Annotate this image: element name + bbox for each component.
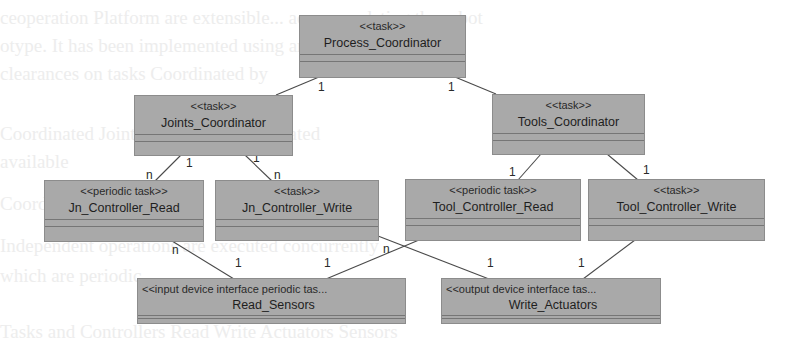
operations-compartment bbox=[45, 226, 203, 241]
stereotype-label: <<task>> bbox=[300, 19, 465, 33]
multiplicity-label: 1 bbox=[643, 164, 650, 176]
multiplicity-label: 1 bbox=[448, 81, 455, 93]
multiplicity-label: n bbox=[383, 243, 390, 255]
multiplicity-label: 1 bbox=[578, 257, 585, 269]
link-toolread-readsensors[interactable] bbox=[326, 240, 419, 279]
class-joints-coordinator[interactable]: <<task>> Joints_Coordinator bbox=[134, 95, 293, 156]
stereotype-label: <<periodic task>> bbox=[406, 183, 580, 197]
link-jnread-readsensors[interactable] bbox=[172, 241, 234, 279]
attributes-compartment bbox=[406, 218, 580, 225]
attributes-compartment bbox=[589, 218, 764, 225]
operations-compartment bbox=[406, 225, 580, 240]
link-process-joints[interactable] bbox=[276, 77, 319, 95]
class-write-actuators[interactable]: <<output device interface tas... Write_A… bbox=[441, 278, 661, 324]
class-name: Read_Sensors bbox=[142, 298, 405, 312]
class-tool-controller-write[interactable]: <<task>> Tool_Controller_Write bbox=[588, 179, 765, 241]
class-header: <<task>> Jn_Controller_Write bbox=[216, 181, 378, 215]
link-toolwrite-writeactuators[interactable] bbox=[583, 240, 635, 279]
operations-compartment bbox=[216, 226, 378, 240]
link-jnwrite-writeactuators[interactable] bbox=[378, 236, 489, 279]
class-name: Tool_Controller_Read bbox=[406, 200, 580, 214]
attributes-compartment bbox=[300, 54, 465, 61]
class-header: <<output device interface tas... Write_A… bbox=[442, 279, 660, 312]
operations-compartment bbox=[589, 225, 764, 240]
multiplicity-label: 1 bbox=[324, 257, 331, 269]
class-name: Tools_Coordinator bbox=[493, 115, 644, 129]
operations-compartment bbox=[442, 318, 660, 323]
link-tools-toolwrite[interactable] bbox=[607, 154, 638, 180]
multiplicity-label: n bbox=[172, 244, 179, 256]
multiplicity-label: 1 bbox=[186, 157, 193, 169]
stereotype-label: <<input device interface periodic tas... bbox=[142, 282, 405, 296]
stereotype-label: <<task>> bbox=[135, 99, 292, 113]
class-tools-coordinator[interactable]: <<task>> Tools_Coordinator bbox=[492, 94, 645, 155]
stereotype-label: <<task>> bbox=[589, 183, 764, 197]
class-process-coordinator[interactable]: <<task>> Process_Coordinator bbox=[299, 15, 466, 78]
class-read-sensors[interactable]: <<input device interface periodic tas...… bbox=[137, 278, 406, 324]
multiplicity-label: 1 bbox=[235, 257, 242, 269]
class-name: Write_Actuators bbox=[446, 298, 660, 312]
operations-compartment bbox=[493, 140, 644, 154]
class-jn-controller-write[interactable]: <<task>> Jn_Controller_Write bbox=[215, 180, 379, 241]
multiplicity-label: 1 bbox=[509, 166, 516, 178]
attributes-compartment bbox=[216, 219, 378, 226]
attributes-compartment bbox=[135, 134, 292, 141]
class-header: <<periodic task>> Jn_Controller_Read bbox=[45, 181, 203, 215]
class-name: Jn_Controller_Read bbox=[45, 201, 203, 215]
class-name: Joints_Coordinator bbox=[135, 116, 292, 130]
link-joints-jnread[interactable] bbox=[155, 155, 181, 181]
operations-compartment bbox=[135, 141, 292, 155]
class-header: <<task>> Process_Coordinator bbox=[300, 16, 465, 50]
class-header: <<input device interface periodic tas...… bbox=[138, 279, 405, 312]
attributes-compartment bbox=[45, 219, 203, 226]
multiplicity-label: 1 bbox=[318, 81, 325, 93]
class-header: <<task>> Tools_Coordinator bbox=[493, 95, 644, 129]
stereotype-label: <<output device interface tas... bbox=[446, 282, 660, 296]
class-name: Process_Coordinator bbox=[300, 36, 465, 50]
link-process-tools[interactable] bbox=[455, 77, 496, 94]
class-tool-controller-read[interactable]: <<periodic task>> Tool_Controller_Read bbox=[405, 179, 581, 241]
stereotype-label: <<task>> bbox=[493, 98, 644, 112]
operations-compartment bbox=[300, 61, 465, 77]
stereotype-label: <<task>> bbox=[216, 184, 378, 198]
stereotype-label: <<periodic task>> bbox=[45, 184, 203, 198]
attributes-compartment bbox=[493, 133, 644, 140]
class-jn-controller-read[interactable]: <<periodic task>> Jn_Controller_Read bbox=[44, 180, 204, 242]
class-name: Tool_Controller_Write bbox=[589, 200, 764, 214]
class-header: <<task>> Joints_Coordinator bbox=[135, 96, 292, 130]
link-tools-toolread[interactable] bbox=[518, 154, 541, 180]
class-header: <<task>> Tool_Controller_Write bbox=[589, 180, 764, 214]
operations-compartment bbox=[138, 318, 405, 323]
class-header: <<periodic task>> Tool_Controller_Read bbox=[406, 180, 580, 214]
class-name: Jn_Controller_Write bbox=[216, 201, 378, 215]
multiplicity-label: 1 bbox=[487, 257, 494, 269]
